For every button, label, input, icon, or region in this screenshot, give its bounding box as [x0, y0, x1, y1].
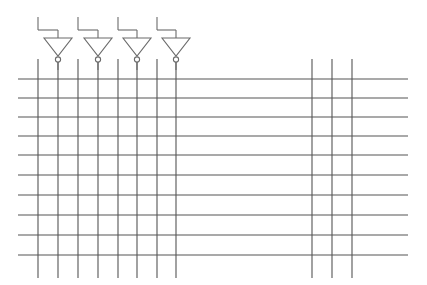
schematic-canvas: [0, 0, 427, 285]
inverter-3-inversion-bubble: [134, 57, 139, 62]
inverter-2-inversion-bubble: [95, 57, 100, 62]
canvas-background: [0, 0, 427, 285]
schematic-drawing: [0, 0, 427, 285]
inverter-4-inversion-bubble: [173, 57, 178, 62]
inverter-1-inversion-bubble: [55, 57, 60, 62]
